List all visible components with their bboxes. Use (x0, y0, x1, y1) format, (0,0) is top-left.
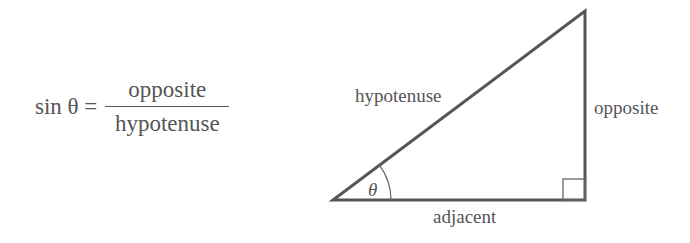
label-theta: θ (368, 179, 377, 201)
label-opposite: opposite (594, 97, 658, 119)
right-angle-marker (563, 179, 585, 200)
right-triangle-diagram (0, 0, 690, 243)
angle-arc (379, 165, 391, 200)
label-hypotenuse: hypotenuse (355, 85, 442, 107)
label-adjacent: adjacent (433, 206, 496, 228)
